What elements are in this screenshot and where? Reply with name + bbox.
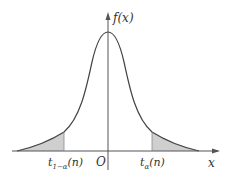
left-tail-shade (17, 132, 64, 151)
y-axis-label: f(x) (112, 11, 134, 25)
left-quantile-label: t1−α(n) (48, 156, 83, 171)
x-axis-label: x (208, 156, 215, 170)
y-axis-arrow-icon (106, 12, 111, 20)
right-tail-shade (152, 132, 199, 151)
x-axis-arrow-icon (212, 149, 220, 154)
origin-label: O (96, 155, 106, 169)
right-quantile-label: tα(n) (140, 156, 165, 171)
t-distribution-diagram: f(x) x O t1−α(n) tα(n) (0, 0, 226, 179)
